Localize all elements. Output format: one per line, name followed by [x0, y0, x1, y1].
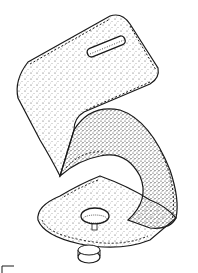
corner-mark [2, 266, 14, 273]
screw-head-icon [78, 245, 100, 263]
felt-piece-illustration [0, 0, 198, 273]
